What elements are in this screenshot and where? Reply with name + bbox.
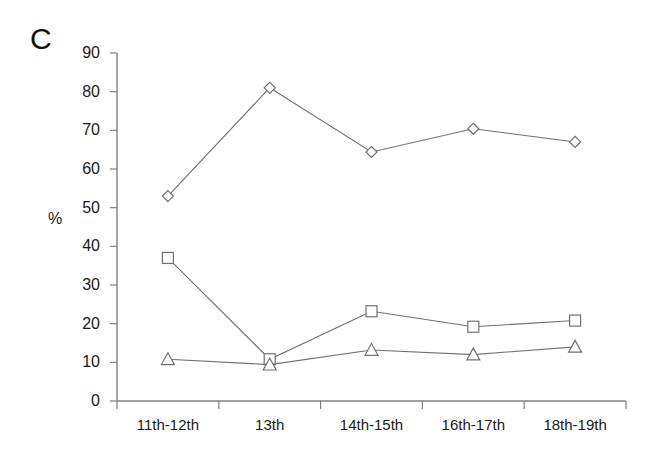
x-tick-label: 11th-12th <box>117 417 219 433</box>
square-marker <box>570 315 581 326</box>
triangle-marker <box>365 343 378 355</box>
diamond-marker <box>570 136 581 147</box>
y-tick-label: 70 <box>60 122 100 138</box>
y-tick-label: 20 <box>60 316 100 332</box>
triangle-marker <box>569 340 582 352</box>
series-diamond-series <box>162 82 580 201</box>
square-marker <box>468 321 479 332</box>
y-tick-label: 40 <box>60 238 100 254</box>
series-line <box>168 88 575 196</box>
chart-figure: C % 0102030405060708090 11th-12th13th14t… <box>0 0 654 474</box>
x-tick-label: 14th-15th <box>321 417 423 433</box>
diamond-marker <box>366 146 377 157</box>
square-marker <box>366 306 377 317</box>
y-tick-label: 60 <box>60 161 100 177</box>
square-marker <box>162 252 173 263</box>
y-tick-label: 90 <box>60 45 100 61</box>
diamond-marker <box>468 123 479 134</box>
y-tick-label: 50 <box>60 200 100 216</box>
y-tick-label: 10 <box>60 354 100 370</box>
x-tick-label: 13th <box>219 417 321 433</box>
triangle-marker <box>161 353 174 365</box>
series-triangle-series <box>161 340 581 370</box>
data-series <box>161 82 581 370</box>
y-tick-label: 0 <box>60 393 100 409</box>
y-tick-label: 30 <box>60 277 100 293</box>
x-tick-label: 16th-17th <box>422 417 524 433</box>
x-tick-label: 18th-19th <box>524 417 626 433</box>
y-tick-label: 80 <box>60 84 100 100</box>
